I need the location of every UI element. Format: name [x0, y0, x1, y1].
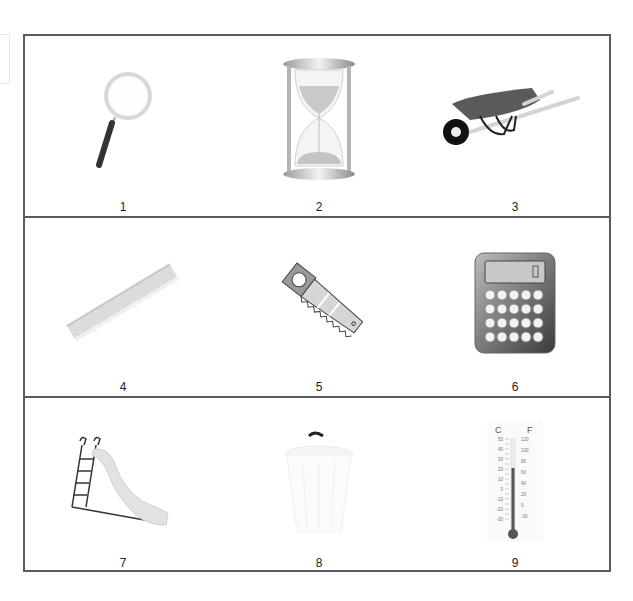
- bucket-icon: [279, 428, 359, 538]
- wheelbarrow-icon: [440, 86, 590, 156]
- svg-text:80: 80: [521, 459, 527, 464]
- item-number: 4: [25, 380, 221, 394]
- slide-icon: [68, 433, 178, 533]
- svg-text:20: 20: [521, 492, 527, 497]
- svg-text:60: 60: [521, 470, 527, 475]
- svg-text:-20: -20: [521, 514, 528, 519]
- svg-text:30: 30: [498, 457, 504, 462]
- picture-grid: 1: [23, 34, 611, 572]
- svg-text:100: 100: [521, 448, 529, 453]
- grid-cell-5: 5: [221, 218, 417, 396]
- svg-text:50: 50: [498, 437, 504, 442]
- item-number: 5: [221, 380, 417, 394]
- svg-text:-10: -10: [496, 497, 503, 502]
- svg-text:20: 20: [498, 467, 504, 472]
- hourglass-icon: [279, 56, 359, 186]
- grid-cell-1: 1: [25, 36, 221, 216]
- svg-text:F: F: [527, 425, 533, 435]
- grid-cell-6: 6: [417, 218, 613, 396]
- item-number: 9: [417, 556, 613, 570]
- item-number: 1: [25, 200, 221, 214]
- grid-cell-8: 8: [221, 398, 417, 572]
- grid-row-2: 4 5: [25, 216, 609, 396]
- item-number: 8: [221, 556, 417, 570]
- magnifying-glass-icon: [83, 61, 163, 181]
- grid-cell-3: 3: [417, 36, 613, 216]
- svg-text:-30: -30: [496, 517, 503, 522]
- saw-icon: [269, 253, 369, 353]
- item-number: 2: [221, 200, 417, 214]
- svg-text:120: 120: [521, 437, 529, 442]
- grid-row-1: 1: [25, 36, 609, 216]
- grid-cell-4: 4: [25, 218, 221, 396]
- grid-row-3: 7 8 C F: [25, 396, 609, 572]
- svg-text:C: C: [495, 425, 502, 435]
- item-number: 7: [25, 556, 221, 570]
- ruler-icon: [58, 253, 188, 353]
- margin-box: [0, 34, 10, 84]
- calculator-icon: [473, 251, 557, 355]
- item-number: 3: [417, 200, 613, 214]
- grid-cell-2: 2: [221, 36, 417, 216]
- svg-text:-20: -20: [496, 507, 503, 512]
- svg-text:10: 10: [498, 477, 504, 482]
- thermometer-icon: C F 50 40 30 20 10 0 -10 -20 -30 120: [485, 421, 545, 545]
- item-number: 6: [417, 380, 613, 394]
- grid-cell-9: C F 50 40 30 20 10 0 -10 -20 -30 120: [417, 398, 613, 572]
- grid-cell-7: 7: [25, 398, 221, 572]
- svg-text:40: 40: [498, 447, 504, 452]
- svg-text:40: 40: [521, 481, 527, 486]
